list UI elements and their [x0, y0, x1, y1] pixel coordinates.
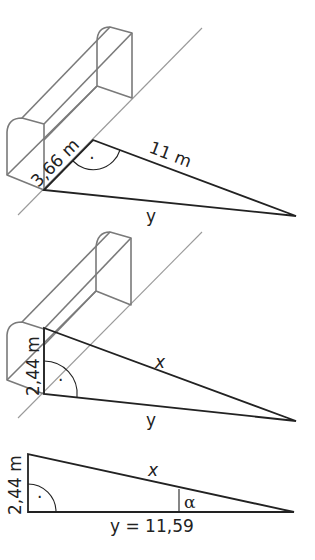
height-label: 2,44 m: [5, 455, 25, 515]
distance-label: 11 m: [147, 137, 195, 171]
hypotenuse-label: x: [147, 460, 159, 480]
panel-2: · 2,44 m x y: [7, 232, 296, 430]
hypotenuse-label: y: [146, 206, 156, 226]
panel-1: · 3,66 m 11 m y: [7, 27, 296, 226]
ground-label: y: [146, 410, 156, 430]
goal-frame: [7, 27, 132, 190]
goal-height-label: 2,44 m: [23, 336, 43, 396]
triangle-2: [44, 328, 296, 421]
slant-label: x: [154, 352, 166, 372]
panel-3: · α 2,44 m x y = 11,59: [5, 454, 294, 536]
triangle-3: [28, 454, 294, 512]
base-label: y = 11,59: [110, 516, 194, 536]
alpha-label: α: [184, 492, 196, 512]
diagram-canvas: · 3,66 m 11 m y · 2,44 m x y · α 2,44 m …: [0, 0, 315, 560]
right-angle-dot: ·: [37, 487, 42, 507]
right-angle-dot: ·: [58, 370, 63, 390]
right-angle-dot: ·: [89, 148, 94, 168]
